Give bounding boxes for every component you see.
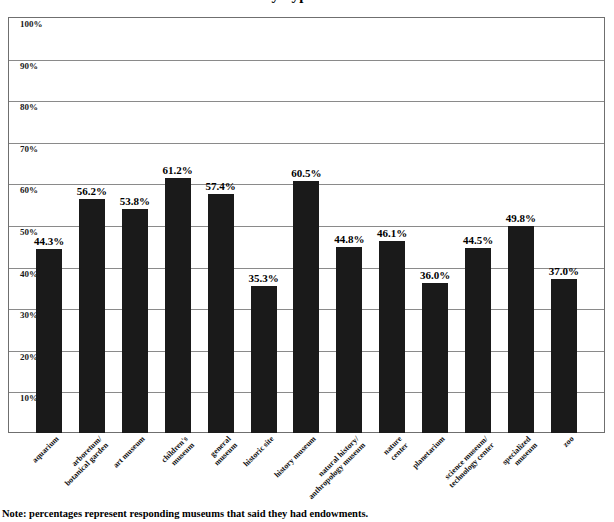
x-axis-label: children'smuseum (160, 435, 196, 471)
bar-value-label: 61.2% (163, 164, 193, 176)
x-axis-labels: aquariumarboretum/botanical gardenart mu… (8, 435, 605, 505)
x-axis-label: naturecenter (382, 435, 411, 464)
bar-value-label: 37.0% (549, 265, 579, 277)
x-axis-label-line: aquarium (31, 435, 61, 465)
bar-value-label: 60.5% (291, 167, 321, 179)
bar-group[interactable]: 53.8% (122, 17, 148, 433)
bar-value-label: 36.0% (420, 269, 450, 281)
bar-value-label: 46.1% (377, 227, 407, 239)
bar-group[interactable]: 44.3% (36, 17, 62, 433)
bar-value-label: 44.8% (334, 233, 364, 245)
x-axis-label-line: historic site (242, 435, 276, 469)
bar[interactable] (551, 279, 577, 433)
bar-group[interactable]: 61.2% (165, 17, 191, 433)
bar[interactable] (465, 248, 491, 433)
bar[interactable] (379, 241, 405, 433)
bar-group[interactable]: 37.0% (551, 17, 577, 433)
bar-group[interactable]: 57.4% (208, 17, 234, 433)
x-axis-label: specializedmuseum (501, 435, 540, 474)
x-axis-label: zoo (562, 435, 577, 450)
x-axis-label: planetarium (411, 435, 447, 471)
page-title: Percent of Museums with Endowments by Ty… (6, 0, 314, 4)
bar-group[interactable]: 56.2% (79, 17, 105, 433)
bar[interactable] (36, 249, 62, 433)
bar[interactable] (422, 283, 448, 433)
bar-value-label: 44.5% (463, 234, 493, 246)
x-axis-label: art museum (112, 435, 147, 470)
x-axis-label-line: planetarium (411, 435, 447, 471)
bar-value-label: 56.2% (77, 185, 107, 197)
bar[interactable] (165, 178, 191, 433)
bar-group[interactable]: 35.3% (251, 17, 277, 433)
bar[interactable] (208, 194, 234, 433)
bar-group[interactable]: 60.5% (293, 17, 319, 433)
x-axis-label: historic site (242, 435, 276, 469)
x-axis-label-line: history museum (274, 435, 319, 480)
bars-layer: 44.3%56.2%53.8%61.2%57.4%35.3%60.5%44.8%… (8, 17, 605, 433)
bar[interactable] (336, 247, 362, 433)
x-axis-label: generalmuseum (206, 435, 239, 468)
bar-value-label: 49.8% (506, 212, 536, 224)
bar-value-label: 44.3% (34, 235, 64, 247)
x-axis-label-line: art museum (112, 435, 147, 470)
bar[interactable] (79, 199, 105, 433)
bar-group[interactable]: 44.8% (336, 17, 362, 433)
bar-group[interactable]: 46.1% (379, 17, 405, 433)
x-axis-label-line: zoo (562, 435, 577, 450)
bar-group[interactable]: 44.5% (465, 17, 491, 433)
bar[interactable] (122, 209, 148, 433)
x-axis-label: history museum (274, 435, 319, 480)
x-axis-label: science museum/technology center (441, 435, 496, 490)
bar[interactable] (251, 286, 277, 433)
bar[interactable] (508, 226, 534, 433)
x-axis-label: aquarium (31, 435, 61, 465)
bar-value-label: 57.4% (205, 180, 235, 192)
bar-value-label: 35.3% (248, 272, 278, 284)
bar-value-label: 53.8% (120, 195, 150, 207)
bar-group[interactable]: 49.8% (508, 17, 534, 433)
chart-note: Note: percentages represent responding m… (2, 508, 368, 519)
x-axis-label: arboretum/botanical garden (57, 435, 110, 488)
bar[interactable] (293, 181, 319, 433)
bar-group[interactable]: 36.0% (422, 17, 448, 433)
